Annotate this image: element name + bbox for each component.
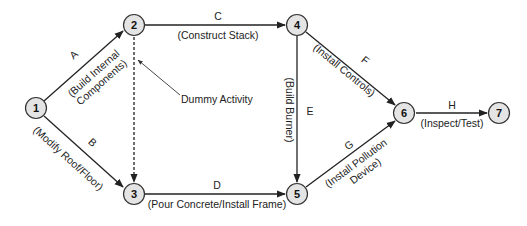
svg-text:5: 5 — [294, 188, 300, 200]
activity-f-desc: (Install Controls) — [311, 41, 378, 99]
node-7: 7 — [489, 103, 510, 124]
activity-d-code: D — [213, 179, 221, 191]
network-diagram: 1 2 3 4 5 6 7 A (Build Internal Componen… — [0, 0, 527, 226]
svg-text:4: 4 — [294, 19, 301, 31]
svg-text:6: 6 — [401, 107, 407, 119]
activity-h-code: H — [448, 99, 456, 111]
activity-a-code: A — [67, 48, 80, 62]
dummy-pointer-arrow — [138, 60, 180, 95]
activity-e-desc: (Build Burner) — [284, 78, 296, 143]
node-3: 3 — [124, 184, 145, 205]
activity-f-code: F — [359, 53, 372, 66]
activity-b-code: B — [86, 135, 99, 149]
svg-text:2: 2 — [131, 19, 137, 31]
activity-c-desc: (Construct Stack) — [177, 29, 258, 41]
activity-c-code: C — [214, 10, 222, 22]
activity-d-desc: (Pour Concrete/Install Frame) — [148, 198, 286, 210]
svg-text:7: 7 — [496, 107, 502, 119]
node-5: 5 — [287, 184, 308, 205]
activity-g-code: G — [342, 138, 356, 153]
node-2: 2 — [124, 15, 145, 36]
dummy-activity-label: Dummy Activity — [181, 93, 254, 105]
node-1: 1 — [26, 98, 47, 119]
activity-b-desc: (Modify Roof/Floor) — [31, 124, 106, 193]
svg-text:1: 1 — [33, 102, 39, 114]
svg-text:3: 3 — [131, 188, 137, 200]
node-6: 6 — [394, 103, 415, 124]
activity-h-desc: (Inspect/Test) — [420, 117, 483, 129]
node-4: 4 — [287, 15, 308, 36]
activity-e-code: E — [306, 105, 313, 117]
